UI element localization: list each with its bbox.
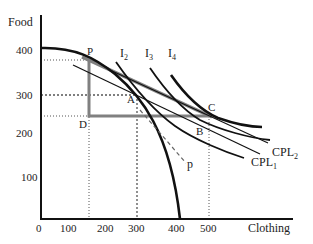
i3-label: I3	[145, 46, 153, 62]
point-c-label: C	[208, 101, 215, 113]
point-d-label: D	[79, 118, 87, 130]
y-tick-200: 200	[16, 127, 33, 139]
x-tick-500: 500	[200, 222, 217, 234]
price-line-p-label: p	[187, 157, 193, 171]
y-tick-400: 400	[16, 44, 33, 56]
x-axis-label: Clothing	[248, 221, 290, 235]
x-tick-400: 400	[168, 222, 185, 234]
x-tick-200: 200	[97, 222, 114, 234]
x-tick-300: 300	[128, 222, 145, 234]
tangent-line	[73, 65, 260, 154]
y-tick-100: 100	[21, 171, 38, 183]
x-tick-0: 0	[36, 222, 42, 234]
trade-diagram: Food Clothing 400 300 200 100 0 100 200 …	[0, 0, 313, 244]
i4-label: I4	[168, 46, 176, 62]
cpl2-line	[110, 70, 268, 143]
point-p-label: P	[87, 45, 93, 57]
x-tick-100: 100	[60, 222, 77, 234]
point-a-label: A	[127, 93, 135, 105]
indifference-curve-i2	[116, 62, 244, 158]
y-tick-300: 300	[16, 89, 33, 101]
p-price-line	[140, 110, 186, 163]
cpl2-label: CPL2	[272, 145, 298, 161]
point-b-label: B	[196, 125, 203, 137]
i2-label: I2	[120, 46, 128, 62]
ppf-curve	[41, 48, 180, 219]
y-axis-label: Food	[8, 15, 33, 29]
